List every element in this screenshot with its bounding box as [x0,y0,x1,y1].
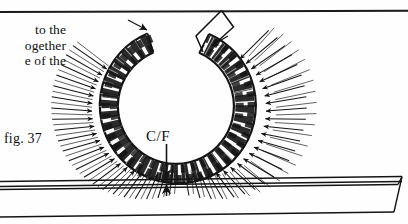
arch-assembly [0,11,402,218]
arch-ring [100,34,256,184]
crown-left-arrow [128,20,147,30]
scanned-page: to the ogether e of the fig. 37 C/F [0,0,408,224]
figure-drawing [0,0,408,224]
